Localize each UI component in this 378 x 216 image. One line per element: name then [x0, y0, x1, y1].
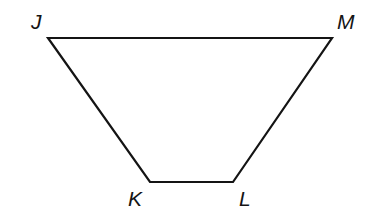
- vertex-label-j: J: [31, 11, 42, 32]
- vertex-label-m: M: [337, 11, 355, 32]
- trapezoid-jklm-outline: [48, 38, 332, 182]
- vertex-label-l: L: [239, 188, 251, 209]
- vertex-label-k: K: [128, 188, 142, 209]
- trapezoid-svg: [0, 0, 378, 216]
- geometry-figure: J M L K: [0, 0, 378, 216]
